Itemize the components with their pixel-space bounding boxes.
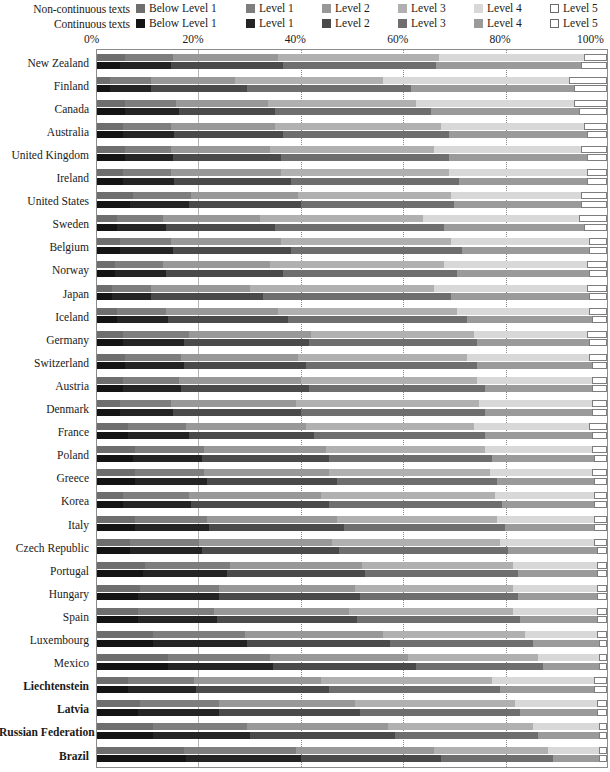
- bar-segment-level-5: [594, 677, 607, 684]
- legend-item-label: Level 4: [487, 2, 522, 15]
- legend-item-non_continuous-4[interactable]: Level 4: [474, 2, 550, 15]
- bar-segment-level-3: [349, 608, 512, 615]
- country-bar-group: [97, 354, 607, 371]
- bar-segment-level-2: [202, 455, 330, 462]
- bar-segment-level-4: [467, 354, 589, 361]
- bar-continuous: [97, 732, 607, 739]
- bar-segment-level-4: [505, 524, 594, 531]
- bar-segment-level-3: [329, 501, 502, 508]
- bar-segment-level-5: [587, 285, 607, 292]
- x-axis-tick-label: 20%: [182, 32, 203, 46]
- bar-segment-level-1: [168, 654, 270, 661]
- bar-segment-level-3: [298, 354, 466, 361]
- legend-item-non_continuous-3[interactable]: Level 3: [398, 2, 474, 15]
- bar-segment-level-4: [492, 677, 594, 684]
- country-bar-group: [97, 539, 607, 556]
- bar-segment-level-4: [525, 631, 596, 638]
- bar-segment-level-5: [587, 331, 607, 338]
- bar-segment-level-0: [97, 316, 117, 323]
- legend-item-continuous-3[interactable]: Level 3: [398, 17, 474, 30]
- legend-item-non_continuous-5[interactable]: Level 5: [550, 2, 610, 15]
- bar-segment-level-0: [97, 562, 145, 569]
- country-bar-group: [97, 608, 607, 625]
- bar-segment-level-4: [454, 201, 582, 208]
- country-label: United States: [0, 195, 89, 207]
- legend-item-continuous-5[interactable]: Level 5: [550, 17, 610, 30]
- legend-item-continuous-4[interactable]: Level 4: [474, 17, 550, 30]
- bar-non-continuous: [97, 562, 607, 569]
- bar-segment-level-4: [474, 331, 586, 338]
- bar-segment-level-0: [97, 570, 143, 577]
- bar-segment-level-2: [207, 516, 337, 523]
- bar-segment-level-4: [485, 409, 592, 416]
- legend-item-non_continuous-1[interactable]: Level 1: [246, 2, 322, 15]
- bar-segment-level-2: [166, 270, 283, 277]
- bar-segment-level-3: [260, 215, 423, 222]
- bar-segment-level-5: [589, 354, 607, 361]
- bar-segment-level-1: [123, 169, 171, 176]
- bar-segment-level-5: [581, 62, 607, 69]
- legend-item-non_continuous-0[interactable]: Below Level 1: [136, 2, 246, 15]
- bar-segment-level-0: [97, 308, 117, 315]
- bar-segment-level-0: [97, 608, 138, 615]
- legend-item-non_continuous-2[interactable]: Level 2: [322, 2, 398, 15]
- bar-segment-level-1: [128, 677, 194, 684]
- bar-segment-level-5: [599, 663, 607, 670]
- bar-segment-level-5: [592, 316, 607, 323]
- bar-segment-level-2: [151, 85, 248, 92]
- country-bar-group: [97, 377, 607, 394]
- bar-continuous: [97, 570, 607, 577]
- country-bar-group: [97, 516, 607, 533]
- legend-item-continuous-2[interactable]: Level 2: [322, 17, 398, 30]
- bar-segment-level-1: [138, 608, 215, 615]
- bar-segment-level-1: [138, 593, 220, 600]
- bar-segment-level-1: [135, 469, 204, 476]
- bar-segment-level-3: [247, 85, 410, 92]
- bar-continuous: [97, 385, 607, 392]
- bar-segment-level-0: [97, 686, 128, 693]
- country-label: Iceland: [0, 311, 89, 323]
- bar-continuous: [97, 201, 607, 208]
- bar-segment-level-2: [179, 377, 301, 384]
- bar-segment-level-0: [97, 238, 120, 245]
- bar-continuous: [97, 755, 607, 762]
- bar-segment-level-0: [97, 192, 133, 199]
- bar-segment-level-4: [518, 593, 597, 600]
- bar-segment-level-4: [477, 377, 592, 384]
- bar-segment-level-4: [477, 362, 592, 369]
- legend-item-continuous-1[interactable]: Level 1: [246, 17, 322, 30]
- bar-segment-level-2: [151, 285, 250, 292]
- bar-segment-level-3: [355, 585, 513, 592]
- x-axis-tick-label: 0%: [84, 32, 99, 46]
- bar-segment-level-4: [513, 562, 597, 569]
- bar-segment-level-0: [97, 516, 135, 523]
- bar-segment-level-0: [97, 492, 123, 499]
- bar-segment-level-0: [97, 654, 168, 661]
- bar-segment-level-0: [97, 755, 186, 762]
- bar-continuous: [97, 62, 607, 69]
- bar-segment-level-3: [329, 469, 490, 476]
- bar-segment-level-1: [130, 201, 189, 208]
- bar-segment-level-5: [594, 455, 607, 462]
- bar-segment-level-2: [301, 755, 441, 762]
- bar-segment-level-0: [97, 593, 138, 600]
- bar-segment-level-2: [171, 400, 296, 407]
- bar-segment-level-3: [388, 723, 533, 730]
- bar-non-continuous: [97, 77, 607, 84]
- country-label: Portugal: [0, 565, 89, 577]
- bar-segment-level-5: [581, 146, 607, 153]
- bar-segment-level-2: [181, 385, 309, 392]
- country-bar-group: [97, 308, 607, 325]
- bar-segment-level-4: [439, 54, 584, 61]
- bar-segment-level-2: [171, 238, 281, 245]
- bar-segment-level-4: [500, 686, 594, 693]
- bar-segment-level-2: [171, 62, 283, 69]
- legend-swatch-icon: [398, 4, 407, 13]
- bar-non-continuous: [97, 192, 607, 199]
- bar-segment-level-5: [589, 238, 607, 245]
- bar-segment-level-2: [173, 154, 280, 161]
- bar-continuous: [97, 455, 607, 462]
- bar-segment-level-5: [597, 547, 607, 554]
- legend-item-continuous-0[interactable]: Below Level 1: [136, 17, 246, 30]
- country-bar-group: [97, 562, 607, 579]
